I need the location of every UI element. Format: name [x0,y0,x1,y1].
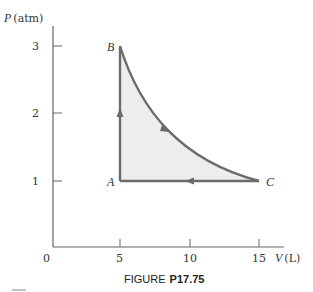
x-axis-label: V(L) [275,251,300,265]
y-tick-label-3: 3 [32,40,39,53]
pv-diagram: P(atm) 3 2 1 0 5 10 15 V(L) B A C FIGURE… [0,0,313,292]
y-axis-label: P(atm) [3,11,43,25]
x-tick-label-5: 5 [116,252,123,265]
y-tick-label-1: 1 [32,175,39,188]
point-label-c: C [266,175,275,189]
y-tick-label-2: 2 [32,107,39,120]
figure-caption: FIGUREP17.75 [124,273,204,285]
x-tick-label-10: 10 [183,252,197,265]
x-tick-label-15: 15 [252,252,266,265]
cycle-area [120,46,259,181]
point-label-a: A [106,175,115,189]
point-label-b: B [107,40,115,54]
origin-label: 0 [43,252,50,265]
